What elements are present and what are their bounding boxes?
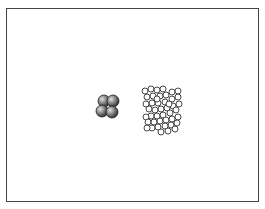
ring-particle [175,114,181,120]
ring-particle [158,106,164,112]
ring-particle [169,116,175,122]
compact-sphere-cluster [96,95,119,118]
ring-particle [145,119,151,125]
ring-particle [144,125,150,131]
ring-particle [163,117,169,123]
ring-particle [175,94,181,100]
ring-particle [166,101,172,107]
ring-particle [174,120,180,126]
ring-particle [152,107,158,113]
ring-particle [175,88,181,94]
ring-particle [160,86,166,92]
sphere [107,95,119,107]
ring-particle [158,129,164,135]
ring-particle [169,89,175,95]
particle-diagram [0,0,265,209]
sphere [106,106,118,118]
ring-particle [146,106,152,112]
ring-particle [176,101,182,107]
ring-particle [172,126,178,132]
ring-particle [173,107,179,113]
ring-particle [148,86,154,92]
ring-particle [157,118,163,124]
ring-particle [163,92,169,98]
ring-particle [167,110,173,116]
ring-particle [151,119,157,125]
loose-ring-aggregate [142,86,182,135]
ring-particle [154,87,160,93]
ring-particle [144,94,150,100]
ring-particle [154,96,160,102]
ring-particle [142,88,148,94]
ring-particle [149,100,155,106]
ring-particle [165,128,171,134]
